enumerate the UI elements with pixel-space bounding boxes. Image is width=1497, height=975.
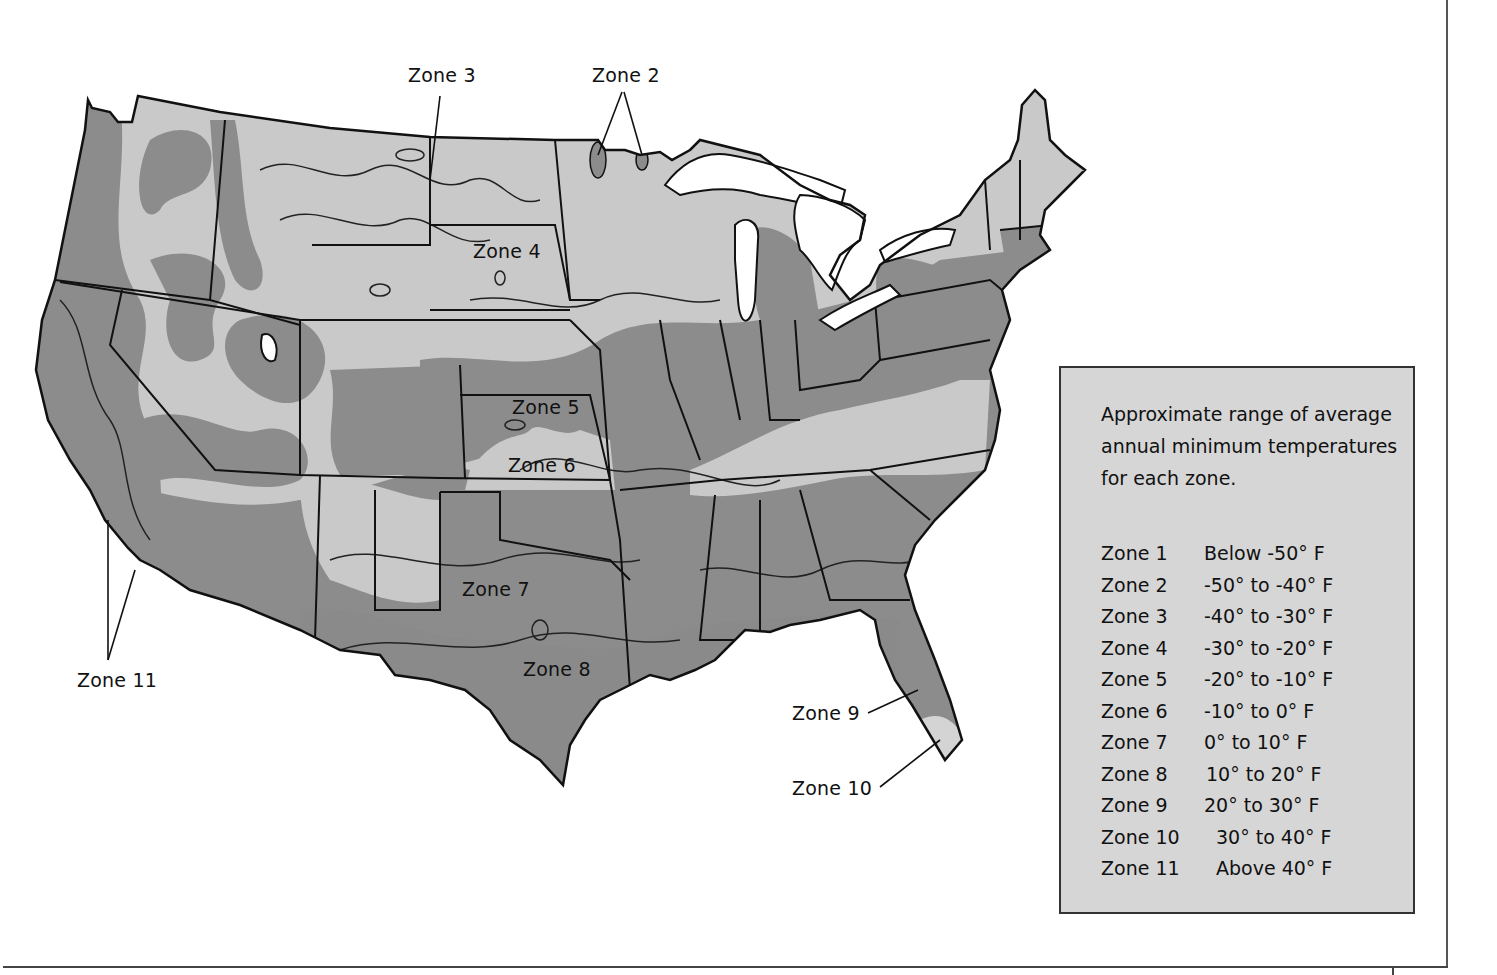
leader-zone2-a [598, 92, 622, 155]
legend-range: 0° to 10° F [1204, 727, 1307, 759]
label-zone9: Zone 9 [792, 702, 860, 724]
legend-range: -20° to -10° F [1204, 664, 1333, 696]
leader-zone2-b [624, 92, 642, 155]
label-zone7: Zone 7 [462, 578, 530, 600]
legend-box: Approximate range of average annual mini… [1059, 366, 1415, 914]
zone-region-colorado [330, 365, 465, 475]
legend-zone: Zone 4 [1101, 633, 1168, 665]
legend-zone: Zone 10 [1101, 822, 1180, 854]
legend-range: -30° to -20° F [1204, 633, 1333, 665]
legend-zone: Zone 2 [1101, 570, 1168, 602]
label-zone10: Zone 10 [792, 777, 872, 799]
legend-range: 30° to 40° F [1216, 822, 1331, 854]
legend-zone: Zone 5 [1101, 664, 1168, 696]
legend-range: Above 40° F [1216, 853, 1332, 885]
legend-zone: Zone 9 [1101, 790, 1168, 822]
legend-zone: Zone 6 [1101, 696, 1168, 728]
leader-zone10 [880, 740, 940, 787]
legend-zone: Zone 7 [1101, 727, 1168, 759]
legend-zone: Zone 11 [1101, 853, 1180, 885]
lake-michigan [735, 220, 758, 321]
label-zone6: Zone 6 [508, 454, 576, 476]
label-zone4: Zone 4 [473, 240, 541, 262]
label-zone5: Zone 5 [512, 396, 580, 418]
legend-range: 20° to 30° F [1204, 790, 1319, 822]
legend-range: -10° to 0° F [1204, 696, 1314, 728]
legend-zone: Zone 3 [1101, 601, 1168, 633]
zone-region-ma-dark [1000, 225, 1055, 260]
legend-title: Approximate range of average annual mini… [1101, 398, 1411, 494]
legend-range: -50° to -40° F [1204, 570, 1333, 602]
label-zone3: Zone 3 [408, 64, 476, 86]
legend-range: -40° to -30° F [1204, 601, 1333, 633]
legend-zone: Zone 8 [1101, 759, 1168, 791]
label-zone8: Zone 8 [523, 658, 591, 680]
label-zone11: Zone 11 [77, 669, 157, 691]
legend-range: 10° to 20° F [1206, 759, 1321, 791]
label-zone2: Zone 2 [592, 64, 660, 86]
legend-zone: Zone 1 [1101, 538, 1168, 570]
legend-range: Below -50° F [1204, 538, 1325, 570]
leader-zone11-b [108, 570, 135, 660]
